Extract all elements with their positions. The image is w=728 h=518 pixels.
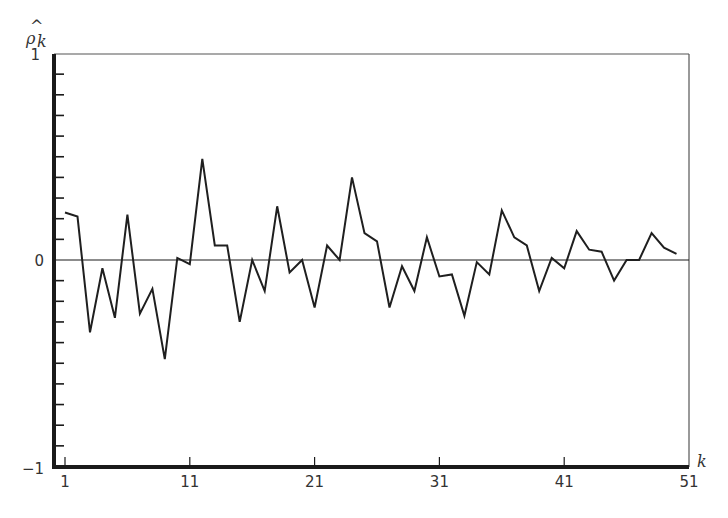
x-tick-label: 1 xyxy=(60,473,70,491)
x-tick-label: 31 xyxy=(430,473,449,491)
y-axis-label-subscript: k xyxy=(37,32,47,51)
x-tick-label: 11 xyxy=(180,473,199,491)
x-tick-label: 21 xyxy=(305,473,324,491)
y-axis-label: ρ xyxy=(25,29,36,48)
acf-chart: 1 0 −1 ^ ρ k k 11121314151 xyxy=(0,0,728,518)
acf-series-line xyxy=(65,159,677,359)
x-tick-label: 51 xyxy=(679,473,698,491)
y-tick-label-bottom: −1 xyxy=(22,460,44,478)
x-axis-label: k xyxy=(697,452,707,471)
y-tick-label-zero: 0 xyxy=(34,252,44,270)
x-tick-labels: 11121314151 xyxy=(60,473,698,491)
x-tick-label: 41 xyxy=(555,473,574,491)
